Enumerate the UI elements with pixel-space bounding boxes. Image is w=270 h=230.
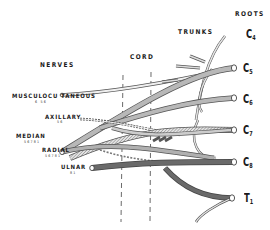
header-trunks: TRUNKS [178,29,213,36]
t1-cap [229,195,234,201]
root-label-c7: C7 [243,124,253,138]
root-label-c6: C6 [243,93,253,107]
c8-cap [231,159,236,165]
brachial-plexus-diagram [0,0,270,230]
header-roots: ROOTS [235,11,265,18]
nerve-label-median: MEDIAN [16,133,46,139]
nerve-sub-median: 56781 [24,141,40,145]
header-cord: CORD [130,54,154,61]
root-label-t1: T1 [244,192,253,206]
c5-cap [231,65,236,71]
nerve-label-musculocutaneous: MUSCULOCU TANEOUS [12,93,96,99]
nerve-label-radial: RADIAL [42,147,70,153]
lower-trunk [92,162,234,222]
nerve-sub-musculocutaneous: 6 56 [35,101,47,105]
root-caps [229,65,236,201]
upper-trunk [62,56,234,152]
nerve-sub-axillary: 56 [57,121,64,125]
nerve-label-ulnar: ULNAR [61,164,86,170]
c6-cap [231,95,236,101]
root-label-c5: C5 [243,62,253,76]
ulnar-cap [90,165,95,170]
nerve-sub-ulnar: 81 [70,172,77,176]
root-label-c4: C4 [246,28,256,42]
root-label-c8: C8 [243,156,253,170]
c7-cap [231,127,236,133]
header-nerves: NERVES [40,62,75,69]
nerve-sub-radial: 56781 [45,155,61,159]
